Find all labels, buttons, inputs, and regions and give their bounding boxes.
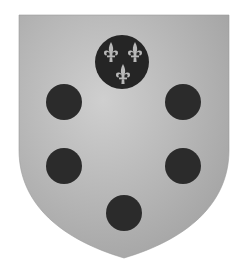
ball-upper-left: [46, 84, 82, 120]
ball-upper-right: [165, 84, 201, 120]
ball-bottom: [106, 195, 142, 231]
top-ball-with-fleurs-de-lis: [95, 35, 149, 89]
coat-of-arms: [0, 0, 243, 272]
ball-lower-left: [46, 148, 82, 184]
ball-lower-right: [165, 148, 201, 184]
